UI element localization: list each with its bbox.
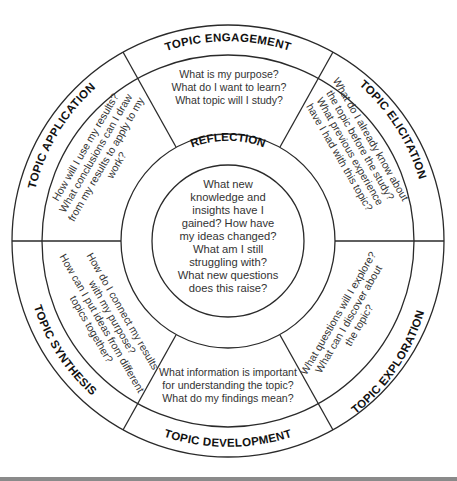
svg-text:What new questions: What new questions (178, 269, 279, 281)
segment-label-engagement: TOPIC ENGAGEMENT (163, 31, 292, 53)
svg-text:knowledge and: knowledge and (190, 191, 265, 203)
inquiry-wheel-diagram: TOPIC ENGAGEMENT TOPIC ELICITATION TOPIC… (0, 0, 457, 481)
segment-questions-exploration: What questions will I explore? What can … (298, 249, 399, 388)
svg-text:insights have I: insights have I (192, 204, 264, 216)
svg-text:What is my purpose?: What is my purpose? (179, 68, 279, 80)
svg-text:gained? How have: gained? How have (182, 217, 275, 229)
svg-text:for understanding the topic?: for understanding the topic? (162, 379, 293, 391)
svg-text:What topic will I study?: What topic will I study? (175, 94, 283, 106)
footer-bar (0, 477, 457, 481)
reflection-label: REFLECTION (189, 131, 268, 150)
svg-text:What do my findings mean?: What do my findings mean? (162, 392, 293, 404)
svg-text:struggling with?: struggling with? (189, 256, 267, 268)
segment-questions-development: What information is important for unders… (159, 366, 297, 404)
svg-text:my ideas changed?: my ideas changed? (179, 230, 276, 242)
segment-questions-synthesis: How do I connect my results with my purp… (47, 239, 168, 400)
segment-questions-elicitation: What do I already know about the topic b… (300, 75, 412, 220)
svg-text:What can I discover about: What can I discover about (312, 263, 384, 375)
svg-text:does this raise?: does this raise? (189, 282, 267, 294)
svg-text:What information is important: What information is important (159, 366, 297, 378)
svg-text:What new: What new (203, 178, 254, 190)
svg-text:What am I still: What am I still (193, 243, 263, 255)
svg-text:What do I want to learn?: What do I want to learn? (172, 81, 287, 93)
segment-questions-engagement: What is my purpose? What do I want to le… (172, 68, 287, 106)
reflection-questions: What new knowledge and insights have I g… (178, 178, 279, 294)
segment-label-development: TOPIC DEVELOPMENT (163, 427, 293, 449)
